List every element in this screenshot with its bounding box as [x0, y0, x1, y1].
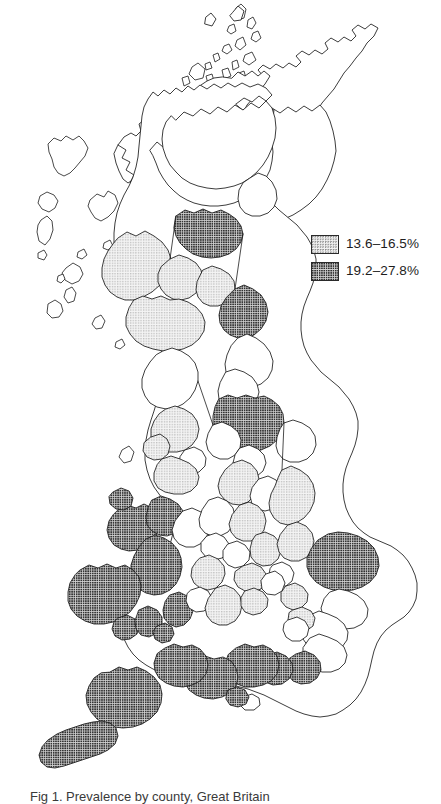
island-small-1	[77, 249, 87, 259]
legend-label-dark: 19.2–27.8%	[346, 264, 419, 278]
island-isle-of-man	[119, 446, 134, 463]
county-cornwall	[39, 721, 118, 768]
island-islay	[47, 300, 63, 318]
island-jura	[64, 287, 76, 303]
figure-caption: Fig 1. Prevalence by county, Great Brita…	[30, 789, 427, 804]
county-somerset	[154, 644, 208, 687]
island-islay-small	[57, 274, 65, 283]
island-north-uist	[38, 192, 58, 212]
county-devon	[86, 667, 162, 728]
legend-row-dark: 19.2–27.8%	[311, 261, 436, 281]
island-small-3	[115, 339, 125, 349]
island-lewis-harris	[48, 136, 88, 176]
island-skye	[88, 191, 118, 221]
island-barra	[38, 250, 47, 260]
county-anglesey	[109, 488, 133, 510]
island-south-uist	[37, 216, 53, 245]
county-dorset-coast-east	[226, 687, 249, 707]
legend-label-light: 13.6–16.5%	[346, 237, 419, 251]
map-legend: 13.6–16.5% 19.2–27.8%	[311, 234, 436, 281]
island-arran	[92, 315, 105, 329]
county-surrey	[283, 617, 309, 641]
legend-row-light: 13.6–16.5%	[311, 234, 436, 254]
legend-swatch-light-stipple	[311, 235, 339, 254]
island-mull	[62, 263, 83, 284]
legend-swatch-dark-stipple	[311, 262, 339, 281]
